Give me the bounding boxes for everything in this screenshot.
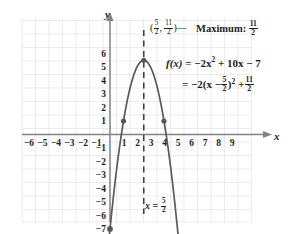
axis-sym-equals: =	[153, 200, 159, 211]
y-tick-label: −5	[96, 197, 106, 207]
x-tick-label: 4	[162, 138, 167, 148]
y-tick-label: 3	[101, 89, 106, 99]
x-tick-label: −2	[78, 138, 88, 148]
linear-and-constant-terms: + 10x − 7	[218, 57, 261, 69]
vertex-form-fraction: 52	[221, 76, 227, 94]
equation-standard-form: f(x) = −2x2 + 10x − 7	[166, 58, 261, 69]
x-tick-label: −4	[51, 138, 61, 148]
y-tick-label: 1	[101, 116, 106, 126]
axis-sym-variable: x	[145, 200, 150, 211]
y-tick-label: 5	[101, 62, 106, 72]
x-tick-label: 8	[216, 138, 221, 148]
axis-of-symmetry-annotation: x = 52	[145, 198, 167, 214]
x-tick-label: −6	[24, 138, 34, 148]
y-tick-label: −6	[96, 211, 106, 221]
x-tick-labels: −6−5−4−3−2−1123456789	[24, 138, 235, 148]
plotted-point-vertex	[141, 58, 146, 63]
y-tick-label: −4	[96, 184, 106, 194]
x-tick-label: 6	[189, 138, 194, 148]
x-tick-label: 5	[176, 138, 181, 148]
vertex-form-plus: +	[238, 78, 244, 90]
x-tick-label: 3	[149, 138, 154, 148]
x-tick-label: 9	[230, 138, 235, 148]
axis-sym-fraction: 52	[161, 198, 166, 214]
y-tick-label: 2	[101, 103, 106, 113]
vertex-form-exponent: 2	[231, 77, 235, 86]
equals-sign: =	[185, 57, 191, 69]
parabola-figure: 654321−1−2−3−4−5−6−7−6−5−4−3−2−112345678…	[0, 0, 289, 234]
y-tick-label: −2	[96, 157, 106, 167]
x-tick-label: 2	[135, 138, 140, 148]
plotted-point-curve-point	[161, 118, 166, 123]
fraction-eleven-halves: 112	[164, 20, 173, 36]
y-axis	[107, 12, 114, 222]
y-tick-label: 4	[101, 76, 106, 86]
y-axis-label: y	[105, 8, 110, 20]
vertex-form-constant: 112	[245, 76, 254, 94]
equals-sign-2: =	[182, 78, 188, 90]
x-tick-label: 7	[203, 138, 208, 148]
y-tick-label: −3	[96, 170, 106, 180]
leader-dash: —	[177, 22, 187, 33]
exponent: 2	[212, 55, 216, 64]
x-axis-label: x	[274, 130, 280, 142]
y-tick-label: 6	[101, 49, 106, 59]
quadratic-term: −2x	[194, 57, 211, 69]
y-tick-label: −7	[96, 224, 106, 234]
x-axis	[22, 131, 272, 138]
x-tick-label: −3	[64, 138, 74, 148]
maximum-word: Maximum:	[196, 23, 246, 34]
vertex-form-lead: −2(x −	[191, 78, 221, 90]
x-tick-label: −5	[37, 138, 47, 148]
comma-separator: ,	[160, 22, 163, 33]
equation-vertex-form: = −2(x −52)2 +112	[182, 76, 254, 94]
plotted-point-y-intercept	[107, 226, 113, 232]
grid-lines	[22, 18, 252, 222]
x-tick-label: −1	[91, 138, 101, 148]
fraction-five-halves: 52	[154, 20, 159, 36]
vertex-coordinate-annotation: (52, 112)—	[150, 20, 187, 36]
plotted-point-curve-point	[121, 118, 126, 123]
maximum-annotation: Maximum: 112	[196, 20, 258, 37]
maximum-value-fraction: 112	[249, 20, 258, 37]
x-tick-label: 1	[122, 138, 127, 148]
function-name: f(x)	[166, 57, 183, 69]
